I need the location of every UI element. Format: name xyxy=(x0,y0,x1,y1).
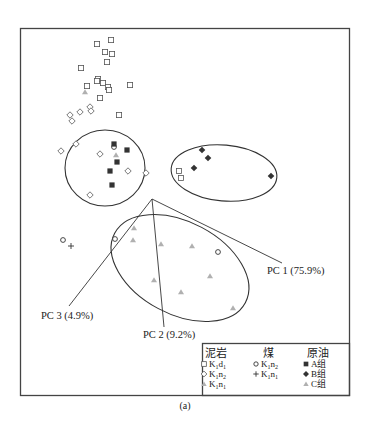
gray-triangle-marker-icon xyxy=(189,243,195,248)
open-square-marker-icon xyxy=(97,95,102,100)
pc-axis-label: PC 1 (75.9%) xyxy=(267,265,325,277)
open-square-marker-icon xyxy=(94,78,99,83)
series-plus xyxy=(68,243,74,249)
open-diamond-marker-icon xyxy=(125,168,131,174)
gray-triangle-marker-icon xyxy=(230,305,236,310)
gray-triangle-marker-icon xyxy=(130,237,136,242)
filled-square-marker-icon xyxy=(124,147,129,152)
gray-triangle-marker-icon xyxy=(151,277,157,282)
open-square-marker-icon xyxy=(109,51,114,56)
legend-item-label: K1n1 xyxy=(261,369,278,380)
gray-triangle-marker-icon xyxy=(113,152,119,157)
filled-diamond-marker-icon xyxy=(205,155,212,162)
pc-axes: PC 1 (75.9%)PC 2 (9.2%)PC 3 (4.9%) xyxy=(41,199,325,341)
legend-group-header: 原油 xyxy=(307,346,329,360)
figure-caption: (a) xyxy=(179,400,190,412)
open-diamond-marker-icon xyxy=(87,192,93,198)
filled-square-marker-icon xyxy=(107,168,112,173)
open-square-marker-icon xyxy=(108,37,113,42)
open-circle-marker-icon xyxy=(254,362,258,366)
open-square-marker-icon xyxy=(100,80,105,85)
plus-marker-icon xyxy=(253,371,258,376)
open-square-marker-icon xyxy=(176,168,181,173)
open-square-marker-icon xyxy=(78,65,83,70)
open-diamond-marker-icon xyxy=(77,109,83,115)
open-diamond-marker-icon xyxy=(58,148,64,154)
legend: 泥岩K1d1K1n2K1n1煤K1n2K1n1原油A组B组C组 xyxy=(201,344,349,396)
pc-axis-label: PC 2 (9.2%) xyxy=(143,329,196,341)
open-square-marker-icon xyxy=(116,112,121,117)
filled-diamond-marker-icon xyxy=(303,371,309,377)
gray-triangle-marker-icon xyxy=(178,289,184,294)
cluster-ellipses xyxy=(65,130,279,343)
open-diamond-marker-icon xyxy=(97,151,103,157)
filled-diamond-marker-icon xyxy=(191,165,198,172)
legend-item-label: B组 xyxy=(311,368,326,379)
gray-triangle-marker-icon xyxy=(158,241,164,246)
open-square-marker-icon xyxy=(104,59,109,64)
data-points xyxy=(58,37,274,310)
gray-triangle-marker-icon xyxy=(131,225,137,230)
open-square-marker-icon xyxy=(106,87,111,92)
open-diamond-marker-icon xyxy=(73,141,79,147)
filled-square-marker-icon xyxy=(304,362,309,367)
open-square-marker-icon xyxy=(102,49,107,54)
legend-group-header: 泥岩 xyxy=(205,346,227,360)
open-square-marker-icon xyxy=(84,83,89,88)
open-square-marker-icon xyxy=(178,175,183,180)
legend-item-label: C组 xyxy=(311,378,326,389)
gray-triangle-marker-icon xyxy=(303,381,308,386)
filled-square-marker-icon xyxy=(114,159,119,164)
open-square-marker-icon xyxy=(94,41,99,46)
series-filled-diamond xyxy=(191,147,275,180)
filled-square-marker-icon xyxy=(109,182,114,187)
cluster-ellipse xyxy=(93,193,267,344)
pca-biplot: PC 1 (75.9%)PC 2 (9.2%)PC 3 (4.9%) 泥岩K1d… xyxy=(0,0,369,422)
filled-diamond-marker-icon xyxy=(268,173,275,180)
gray-triangle-marker-icon xyxy=(82,89,88,94)
pc-axis-line xyxy=(69,199,152,306)
series-open-circle xyxy=(61,145,221,255)
pc-axis-label: PC 3 (4.9%) xyxy=(41,310,94,322)
open-square-marker-icon xyxy=(127,82,132,87)
plot-frame xyxy=(21,29,350,396)
open-square-marker-icon xyxy=(202,362,207,367)
open-circle-marker-icon xyxy=(216,250,221,255)
series-gray-triangle xyxy=(82,89,88,94)
series-open-diamond xyxy=(58,104,149,198)
legend-item-label: A组 xyxy=(311,358,327,369)
legend-item-label: K1n1 xyxy=(209,379,226,390)
cluster-ellipse xyxy=(169,140,279,205)
filled-square-marker-icon xyxy=(111,141,116,146)
open-diamond-marker-icon xyxy=(69,118,75,124)
open-circle-marker-icon xyxy=(61,238,66,243)
series-filled-square xyxy=(107,141,129,187)
series-open-square xyxy=(78,37,183,180)
open-diamond-marker-icon xyxy=(67,112,73,118)
open-circle-marker-icon xyxy=(113,237,118,242)
plus-marker-icon xyxy=(68,243,74,249)
gray-triangle-marker-icon xyxy=(207,273,213,278)
filled-diamond-marker-icon xyxy=(199,147,206,154)
open-diamond-marker-icon xyxy=(143,170,149,176)
